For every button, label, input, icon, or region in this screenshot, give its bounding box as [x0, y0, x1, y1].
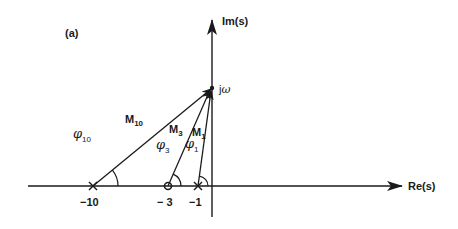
label-m10: M10	[125, 113, 144, 128]
label-phi1: φ1	[185, 136, 199, 154]
tick-label-minus1: −1	[189, 196, 202, 208]
tick-label-minus10: −10	[80, 196, 99, 208]
real-axis-label: Re(s)	[408, 180, 436, 192]
angle-arc-phi10	[112, 170, 118, 186]
angle-arc-phi1	[199, 176, 208, 186]
label-m3: M3	[169, 123, 183, 138]
label-m1: M1	[192, 126, 206, 141]
angle-arc-phi3	[173, 174, 181, 186]
label-phi10: φ10	[73, 126, 92, 144]
test-point-label: jω	[218, 83, 230, 96]
imag-axis-label: Im(s)	[222, 15, 249, 27]
label-phi3: φ3	[156, 137, 170, 155]
s-plane-diagram: (a) Re(s) Im(s) jω −10 − 3 −1 M10 M3 M1 …	[0, 0, 458, 229]
tick-label-minus3: − 3	[157, 196, 173, 208]
panel-label: (a)	[65, 27, 79, 39]
test-point-dot	[210, 86, 214, 90]
